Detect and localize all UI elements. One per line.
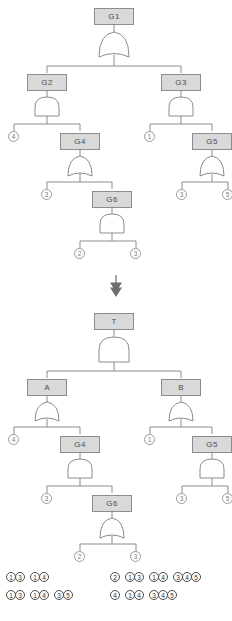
leaf-label: 5 [226,495,230,502]
node-g6-lower-label: G6 [106,499,117,508]
leaf-label: 3 [134,553,138,560]
leaf-event-3a-lower[interactable]: 3 [41,493,52,504]
cut-set-event: 4 [39,572,49,582]
cut-set-event: 5 [63,590,73,600]
cut-set-event: 3 [15,572,25,582]
node-g6-label: G6 [106,195,117,204]
leaf-event-1-lower[interactable]: 1 [144,434,155,445]
fault-tree-figure: G1 G2 G3 G4 G5 G6 4 1 3 3 5 2 3 T A B G4… [0,0,232,621]
leaf-label: 3 [180,191,184,198]
cut-set-event: 3 [15,590,25,600]
node-g5-lower-label: G5 [206,440,217,449]
gate-or-g5 [200,156,224,176]
connector-layer [0,0,232,621]
leaf-label: 3 [180,495,184,502]
cut-set-group: 13 [125,572,143,582]
leaf-event-3b-lower[interactable]: 3 [176,493,187,504]
leaf-label: 2 [78,553,82,560]
cut-set-group: 13 [6,572,24,582]
node-g4-label: G4 [74,137,85,146]
cut-row-left-2: 131435 [6,590,78,600]
cut-set-group: 14 [125,590,143,600]
gate-or-a [35,402,59,421]
gate-or-g4 [68,156,92,176]
transform-arrow-icon [111,275,121,296]
gate-and-t [99,337,129,362]
cut-set-group: 2 [110,572,119,582]
cut-set-event: 4 [158,572,168,582]
cut-row-left-1: 1314 [6,572,54,582]
cut-set-group: 35 [54,590,72,600]
cut-row-right-1: 21314345 [110,572,206,582]
leaf-event-4-lower[interactable]: 4 [8,434,19,445]
cut-set-group: 345 [173,572,200,582]
gate-and-g5-b [200,459,224,478]
cut-set-event: 2 [110,572,120,582]
cut-set-group: 4 [110,590,119,600]
node-g6-lower[interactable]: G6 [92,495,132,512]
leaf-event-5-lower[interactable]: 5 [222,493,232,504]
leaf-event-5[interactable]: 5 [222,189,232,200]
leaf-event-3a[interactable]: 3 [41,189,52,200]
node-a[interactable]: A [27,379,67,396]
cut-set-event: 4 [110,590,120,600]
leaf-label: 3 [134,250,138,257]
cut-set-group: 14 [30,572,48,582]
node-a-label: A [44,383,50,392]
leaf-event-2-lower[interactable]: 2 [74,551,85,562]
cut-set-group: 14 [30,590,48,600]
leaf-label: 5 [226,191,230,198]
gate-and-g4-b [68,459,92,478]
leaf-event-1[interactable]: 1 [144,131,155,142]
leaf-label: 1 [148,133,152,140]
node-g2[interactable]: G2 [27,74,67,91]
node-g5[interactable]: G5 [192,133,232,150]
cut-set-group: 345 [149,590,176,600]
leaf-event-3c[interactable]: 3 [130,248,141,259]
cut-set-event: 5 [191,572,201,582]
leaf-event-2[interactable]: 2 [74,248,85,259]
node-g1[interactable]: G1 [94,8,134,25]
gate-and-g2 [35,97,59,116]
leaf-label: 4 [12,436,16,443]
node-t[interactable]: T [94,313,134,330]
gate-or-b [169,402,193,421]
node-g5-label: G5 [206,137,217,146]
cut-set-group: 13 [6,590,24,600]
cut-row-right-2: 414345 [110,590,182,600]
node-g4-lower-label: G4 [74,440,85,449]
leaf-label: 2 [78,250,82,257]
cut-set-event: 5 [167,590,177,600]
node-g6[interactable]: G6 [92,191,132,208]
node-t-label: T [111,317,116,326]
cut-set-event: 3 [134,572,144,582]
leaf-label: 3 [45,495,49,502]
gate-or-g6-b [100,518,124,538]
cut-set-event: 4 [134,590,144,600]
node-b[interactable]: B [161,379,201,396]
cut-set-list: 1314 131435 21314345 414345 [0,570,232,620]
leaf-event-3b[interactable]: 3 [176,189,187,200]
node-g5-lower[interactable]: G5 [192,436,232,453]
node-g4[interactable]: G4 [60,133,100,150]
node-g1-label: G1 [108,12,119,21]
leaf-label: 4 [12,133,16,140]
gate-or-g1 [99,32,129,57]
cut-set-group: 14 [149,572,167,582]
gate-and-g3 [169,97,193,116]
leaf-label: 1 [148,436,152,443]
node-b-label: B [178,383,184,392]
node-g3-label: G3 [175,78,186,87]
node-g3[interactable]: G3 [161,74,201,91]
node-g2-label: G2 [41,78,52,87]
leaf-label: 3 [45,191,49,198]
leaf-event-4[interactable]: 4 [8,131,19,142]
cut-set-event: 4 [39,590,49,600]
node-g4-lower[interactable]: G4 [60,436,100,453]
gate-and-g6 [100,214,124,233]
leaf-event-3c-lower[interactable]: 3 [130,551,141,562]
